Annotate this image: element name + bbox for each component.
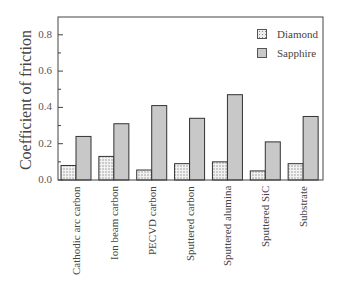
bar-diamond: [212, 162, 227, 180]
y-tick-label: 0.4: [28, 100, 52, 112]
bar-sapphire: [114, 124, 129, 180]
sapphire-swatch-icon: [257, 48, 267, 58]
legend-item-sapphire: Sapphire: [257, 47, 316, 59]
bar-chart: Coefficient of friction 0.00.20.40.60.8 …: [0, 0, 337, 283]
bar-diamond: [250, 171, 265, 180]
bar-sapphire: [76, 136, 91, 180]
y-tick-label: 0.2: [28, 137, 52, 149]
bar-diamond: [99, 156, 114, 180]
y-tick-label: 0.8: [28, 28, 52, 40]
bar-diamond: [137, 170, 152, 180]
bar-diamond: [61, 165, 76, 180]
bar-diamond: [288, 164, 303, 180]
y-tick-label: 0.0: [28, 173, 52, 185]
bar-sapphire: [227, 95, 242, 180]
legend-item-diamond: Diamond: [257, 28, 318, 40]
bar-sapphire: [303, 116, 318, 180]
bar-diamond: [175, 164, 190, 180]
diamond-swatch-icon: [257, 29, 267, 39]
bar-sapphire: [190, 118, 205, 180]
bar-sapphire: [265, 142, 280, 180]
y-tick-label: 0.6: [28, 64, 52, 76]
bar-sapphire: [152, 106, 167, 180]
